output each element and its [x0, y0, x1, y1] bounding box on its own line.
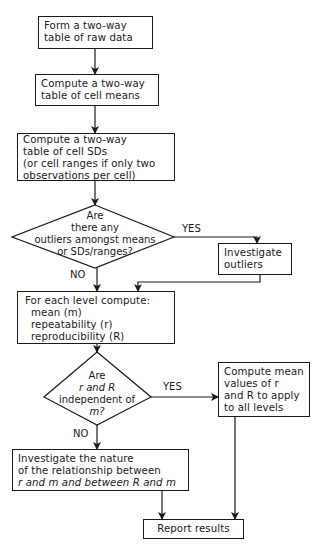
node-compute-mean-values: Compute mean values of r and R to apply … [218, 362, 310, 417]
node-text: of the relationship between [18, 465, 183, 477]
decision-text: m? [52, 406, 142, 418]
decision-outliers-text: Are there any outliers amongst means or … [22, 210, 168, 258]
node-compute-levels: For each level compute: mean (m) repeata… [17, 291, 175, 344]
node-form-raw-data: Form a two-way table of raw data [38, 16, 153, 49]
node-text: table of cell SDs [23, 146, 169, 158]
node-text: mean (m) [25, 307, 169, 319]
node-text: r and m and between R and m [18, 477, 183, 489]
node-text: and R to apply [224, 390, 304, 402]
node-text: values of r [224, 378, 304, 390]
node-text: Compute mean [224, 366, 304, 378]
node-text: Compute a two-way [23, 134, 169, 146]
node-text: For each level compute: [25, 295, 169, 307]
decision-text: there any [22, 222, 168, 234]
node-text: to all levels [224, 402, 304, 414]
node-text: outliers [224, 259, 286, 271]
node-text: observations per cell) [23, 170, 169, 182]
node-investigate-relationship: Investigate the nature of the relationsh… [12, 449, 189, 491]
node-text: repeatability (r) [25, 319, 169, 331]
node-text: reproducibility (R) [25, 331, 169, 343]
node-text: Compute a two-way [41, 78, 153, 90]
decision-text: Are [22, 210, 168, 222]
decision-text: r and R [52, 382, 142, 394]
node-cell-sds: Compute a two-way table of cell SDs (or … [17, 133, 175, 181]
node-text: Form a two-way [44, 20, 147, 32]
node-text: table of cell means [41, 90, 153, 102]
decision-independence-text: Are r and R independent of m? [52, 370, 142, 418]
edge-label-independence-no: NO [73, 428, 88, 439]
node-text: Investigate [224, 247, 286, 259]
node-text: Investigate the nature [18, 453, 183, 465]
node-investigate-outliers: Investigate outliers [218, 243, 292, 275]
node-text: table of raw data [44, 32, 147, 44]
node-text: Report results [148, 523, 239, 535]
edge-label-outliers-yes: YES [182, 223, 201, 234]
edge-label-outliers-no: NO [70, 269, 85, 280]
decision-text: independent of [52, 394, 142, 406]
edge-label-independence-yes: YES [163, 381, 182, 392]
node-text: (or cell ranges if only two [23, 158, 169, 170]
decision-text: Are [52, 370, 142, 382]
node-cell-means: Compute a two-way table of cell means [35, 74, 159, 106]
decision-text: or SDs/ranges? [22, 246, 168, 258]
node-report-results: Report results [143, 519, 244, 539]
decision-text: outliers amongst means [22, 234, 168, 246]
